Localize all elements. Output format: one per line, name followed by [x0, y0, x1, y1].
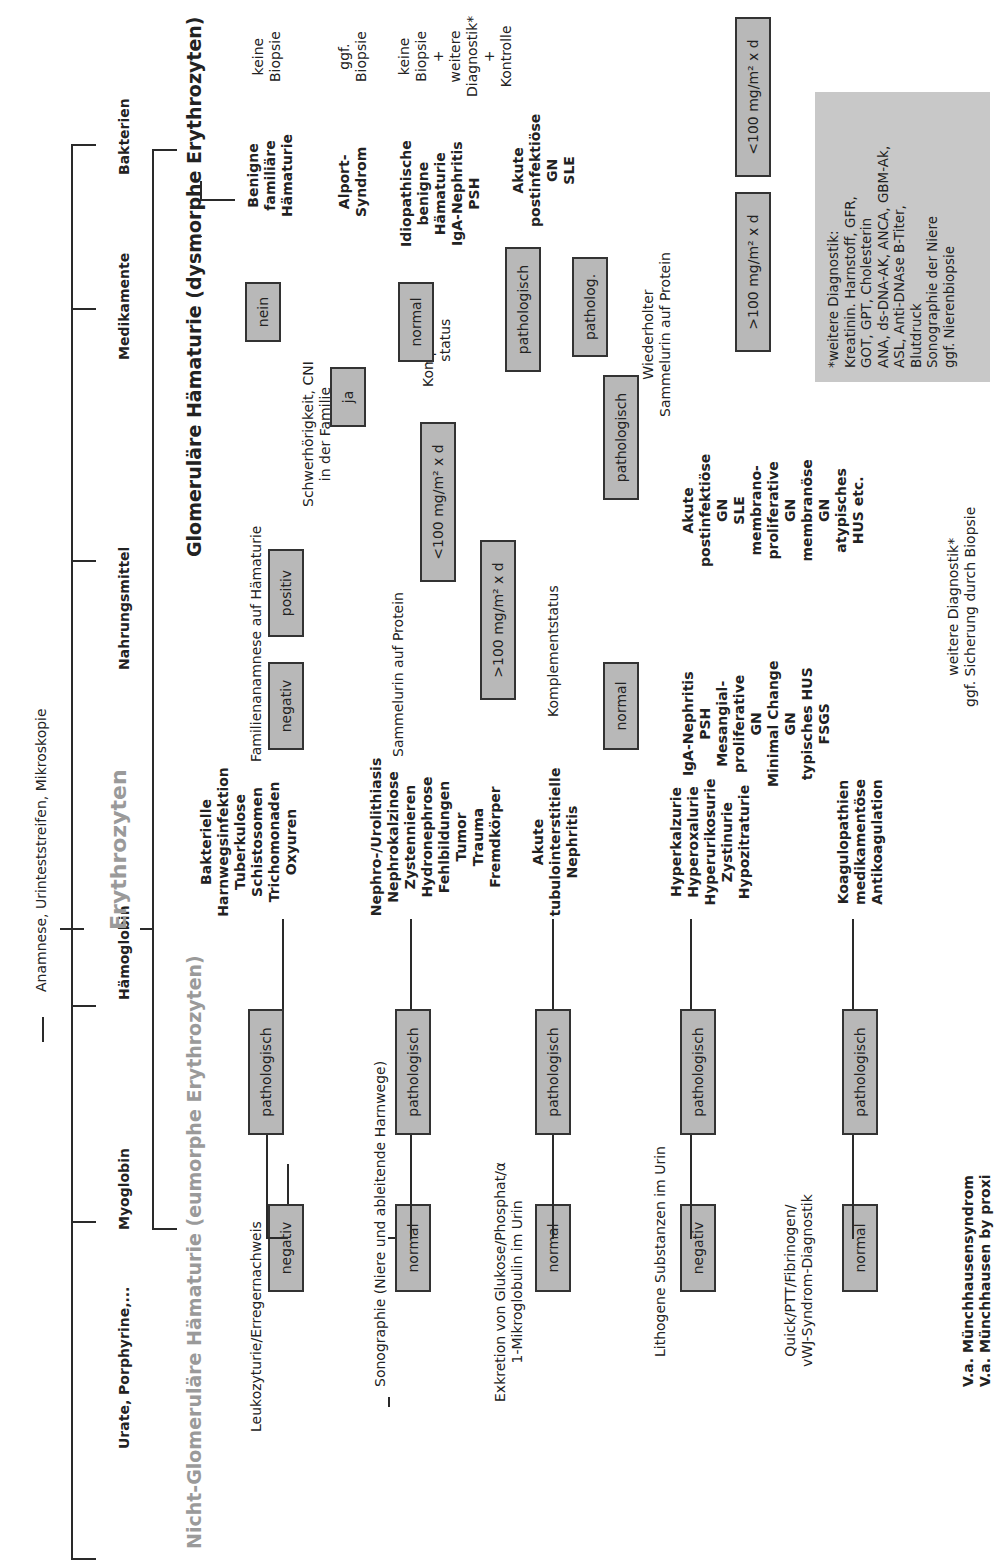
step-leukozyturie: Leukozyturie/Erregernachweis	[248, 1221, 265, 1432]
complement-normal-box[interactable]: normal	[603, 662, 639, 750]
family-history-label: Familienanamnese auf Hämaturie	[248, 526, 265, 762]
glom-tick	[200, 199, 235, 201]
protein-label: Sammelurin auf Protein	[390, 592, 407, 757]
repeat-high-box[interactable]: >100 mg/m² x d	[735, 192, 771, 352]
step1-negativ-box[interactable]: negativ	[268, 1204, 304, 1292]
footnote-further-diagnostics: *weitere Diagnostik: Kreatinin. Harnstof…	[815, 92, 990, 382]
category-medikamente: Medikamente	[116, 253, 133, 360]
tick	[71, 560, 96, 562]
complement-normal-result: IgA-NephritisPSHMesangial-proliferativeG…	[680, 661, 833, 787]
step4-negativ-box[interactable]: negativ	[680, 1204, 716, 1292]
tick	[71, 1221, 96, 1223]
connector	[266, 1237, 288, 1239]
step4-pathologisch-box[interactable]: pathologisch	[680, 1009, 716, 1135]
repeat-protein-label: WiederholterSammelurin auf Protein	[640, 252, 674, 417]
category-nahrungsmittel: Nahrungsmittel	[116, 547, 133, 670]
step-quick: Quick/PTT/Fibrinogen/vWJ-Syndrom-Diagnos…	[782, 1194, 816, 1367]
glomerular-title: Glomeruläre Hämaturie (dysmorphe Erythro…	[186, 17, 203, 558]
tick	[71, 144, 96, 146]
non-glomerular-title: Nicht-Glomeruläre Hämaturie (eumorphe Er…	[186, 955, 203, 1549]
step4-findings: HyperkalzurieHyperoxalurieHyperurikosuri…	[668, 767, 753, 917]
patholog-box[interactable]: patholog.	[572, 257, 608, 357]
tick	[152, 1228, 177, 1230]
step5-normal-box[interactable]: normal	[842, 1204, 878, 1292]
step1-pathologisch-box[interactable]: pathologisch	[248, 1009, 284, 1135]
connector	[388, 1237, 395, 1239]
family-yes-result: Alport-Syndrom	[336, 147, 370, 217]
spacer	[200, 236, 202, 237]
final-munchhausen: V.a. MünchhausensyndromV.a. Münchhausen …	[960, 1174, 994, 1387]
complement-action: weitere Diagnostik*ggf. Sicherung durch …	[945, 507, 979, 707]
connector	[410, 919, 412, 1009]
tick	[71, 1005, 96, 1007]
connector	[690, 1135, 692, 1239]
step-lithogene: Lithogene Substanzen im Urin	[652, 1146, 669, 1357]
connector	[552, 919, 554, 1009]
root-stem	[60, 928, 84, 930]
step1-findings: BakterielleHarnwegsinfektionTuberkuloseS…	[198, 767, 300, 917]
step5-findings: KoagulopathienmedikamentöseAntikoagulati…	[835, 767, 886, 917]
repeat-low-box[interactable]: <100 mg/m² x d	[735, 17, 771, 177]
step3-findings: AkutetubulointerstitielleNephritis	[530, 767, 581, 917]
family-question: Schwerhörigkeit, CNIin der Familie	[300, 361, 334, 507]
category-bracket	[71, 144, 73, 1560]
erythro-stem	[140, 928, 152, 930]
protein-path-result: AkutepostinfektiöseGNSLE	[510, 114, 578, 227]
connector	[388, 1397, 390, 1407]
protein-low-box[interactable]: <100 mg/m² x d	[420, 422, 456, 582]
connector	[690, 919, 692, 1009]
protein-normal-action: keineBiopsie+weitereDiagnostik*+Kontroll…	[396, 16, 515, 97]
family-positiv-box[interactable]: positiv	[268, 549, 304, 637]
connector	[852, 1135, 854, 1239]
step5-pathologisch-box[interactable]: pathologisch	[842, 1009, 878, 1135]
hematuria-bracket	[152, 150, 154, 1230]
category-myoglobin: Myoglobin	[116, 1148, 133, 1230]
connector	[287, 1164, 289, 1204]
family-nein-box[interactable]: nein	[245, 282, 281, 342]
connector	[282, 919, 284, 1009]
protein-complement-normal-box[interactable]: normal	[398, 282, 434, 362]
complement-label: Komplementstatus	[545, 585, 562, 717]
complement-path-result: AkutepostinfektiöseGNSLEmembrano-prolife…	[680, 454, 867, 567]
protein-normal-result: IdiopathischebenigneHämaturieIgA-Nephrit…	[398, 140, 483, 247]
step-sonographie: Sonographie (Niere und ableitende Harnwe…	[372, 1061, 389, 1387]
step3-pathologisch-box[interactable]: pathologisch	[535, 1009, 571, 1135]
family-ja-box[interactable]: ja	[330, 367, 366, 427]
step2-normal-box[interactable]: normal	[395, 1204, 431, 1292]
step2-pathologisch-box[interactable]: pathologisch	[395, 1009, 431, 1135]
root-label: Anamnese, Urinteststreifen, Mikroskopie	[33, 708, 50, 992]
glom-tick-h	[200, 181, 202, 201]
family-yes-action: ggf.Biopsie	[336, 31, 370, 82]
connector	[852, 919, 854, 1009]
family-no-action: keineBiopsie	[250, 31, 284, 82]
category-bakterien: Bakterien	[116, 98, 133, 175]
category-erythrozyten: Erythrozyten	[110, 769, 127, 930]
tick	[71, 1558, 96, 1560]
connector	[410, 1135, 412, 1239]
step2-findings: Nephro-/UrolithiasisNephrokalzinoseZyste…	[368, 757, 504, 917]
tick	[71, 308, 96, 310]
protein-complement-path-box[interactable]: pathologisch	[505, 247, 541, 372]
complement-path-box[interactable]: pathologisch	[603, 375, 639, 500]
connector	[552, 1135, 554, 1239]
connector	[266, 1135, 268, 1239]
root-connector	[42, 1017, 44, 1042]
category-urate: Urate, Porphyrine,...	[116, 1287, 133, 1449]
step-exkretion: Exkretion von Glukose/Phosphat/α1-Mikrog…	[492, 1162, 526, 1402]
hematuria-flowchart: Anamnese, Urinteststreifen, Mikroskopie …	[0, 0, 1006, 1567]
protein-high-box[interactable]: >100 mg/m² x d	[480, 540, 516, 700]
family-negativ-box[interactable]: negativ	[268, 662, 304, 750]
family-no-result: BenignefamiliäreHämaturie	[245, 134, 296, 217]
tick	[152, 149, 177, 151]
